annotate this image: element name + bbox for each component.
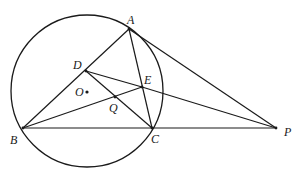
label-point-d: D	[73, 59, 82, 71]
diagram-canvas	[0, 0, 295, 179]
label-point-e: E	[144, 74, 151, 86]
segment-ep	[142, 87, 276, 128]
label-center-o: O	[75, 86, 84, 98]
label-point-p: P	[284, 126, 291, 138]
label-point-b: B	[10, 134, 17, 146]
point-a	[128, 28, 131, 31]
geometry-diagram: A B C D E Q O P	[0, 0, 295, 179]
segment-dc	[86, 71, 152, 128]
point-o	[85, 90, 88, 93]
label-point-c: C	[151, 133, 159, 145]
label-point-a: A	[127, 14, 134, 26]
point-c	[151, 127, 154, 130]
point-q	[114, 96, 117, 99]
point-e	[141, 86, 144, 89]
point-b	[22, 127, 25, 130]
point-d	[85, 70, 88, 73]
label-point-q: Q	[109, 102, 118, 114]
point-p	[275, 127, 278, 130]
